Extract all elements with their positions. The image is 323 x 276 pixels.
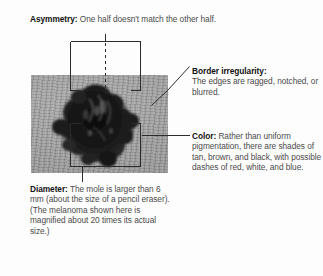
melanoma-abcd-figure: Asymmetry: One half doesn't match the ot… [0, 0, 323, 276]
callout-asymmetry: Asymmetry: One half doesn't match the ot… [30, 14, 320, 24]
callout-asymmetry-body: One half doesn't match the other half. [77, 14, 215, 24]
callout-diameter: Diameter: The mole is larger than 6 mm (… [30, 184, 170, 236]
callout-diameter-lead: Diameter: [30, 184, 68, 194]
melanoma-photo [31, 75, 168, 173]
callout-border: Border irregularity:The edges are ragged… [192, 66, 320, 97]
callout-color: Color: Rather than uniform pigmentation,… [192, 131, 322, 173]
callout-border-body: The edges are ragged, notched, or blurre… [192, 76, 318, 96]
callout-border-lead: Border irregularity: [192, 66, 320, 76]
lesion-shape [31, 75, 168, 173]
callout-asymmetry-lead: Asymmetry: [30, 14, 77, 24]
callout-color-lead: Color: [192, 131, 216, 141]
